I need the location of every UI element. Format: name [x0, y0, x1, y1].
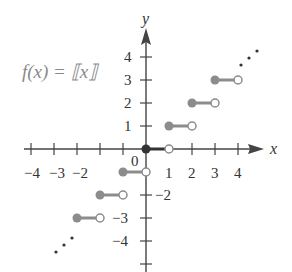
x-tick-label: 3 — [211, 165, 219, 181]
step-function-graph: x y −4 −3 −2 1 2 3 4 0 4 3 2 1 −2 −3 −4 — [0, 0, 292, 272]
open-dot-icon — [96, 214, 104, 222]
open-dot-icon — [188, 122, 196, 130]
closed-dot-icon — [188, 99, 197, 108]
y-tick-label: −3 — [112, 210, 128, 226]
closed-dot-icon — [211, 76, 220, 85]
x-axis-label: x — [269, 140, 277, 157]
open-dot-icon — [234, 76, 242, 84]
open-dot-icon — [211, 99, 219, 107]
y-tick-label: 4 — [124, 49, 132, 65]
closed-dot-icon — [119, 168, 128, 177]
x-tick-label: −4 — [24, 165, 40, 181]
open-dot-icon — [119, 191, 127, 199]
y-tick-label: 1 — [124, 118, 132, 134]
x-tick-label: −2 — [72, 165, 88, 181]
x-tick-label: −3 — [49, 165, 65, 181]
x-tick-label: 2 — [188, 165, 196, 181]
closed-dot-icon — [165, 122, 174, 131]
closed-dot-icon — [142, 145, 151, 154]
closed-dot-icon — [96, 191, 105, 200]
closed-dot-icon — [73, 214, 82, 223]
y-tick-label: 2 — [124, 95, 132, 111]
x-tick-label: 1 — [165, 165, 173, 181]
open-dot-icon — [142, 168, 150, 176]
y-tick-label: −4 — [112, 233, 128, 249]
x-tick-label: 4 — [234, 165, 242, 181]
origin-label: 0 — [131, 153, 139, 169]
x-axis-arrow-icon — [248, 144, 264, 154]
ellipsis-dots-lower — [54, 236, 73, 253]
y-tick-label: −2 — [155, 187, 171, 203]
ellipsis-dots-upper — [239, 49, 258, 66]
y-axis-label: y — [140, 10, 150, 28]
y-tick-label: 3 — [124, 72, 132, 88]
open-dot-icon — [165, 145, 173, 153]
